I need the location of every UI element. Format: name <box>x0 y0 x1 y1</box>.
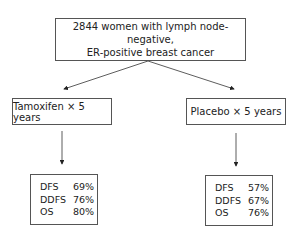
population-line-2: ER-positive breast cancer <box>87 46 214 59</box>
metric-label: OS <box>40 206 72 219</box>
metric-value: 69% <box>72 181 94 194</box>
metric-value: 76% <box>72 194 94 207</box>
metric-label: OS <box>215 207 247 220</box>
arrow-to-tamoxifen <box>64 61 148 89</box>
result-row-ddfs: DDFS 76% <box>40 194 97 207</box>
metric-value: 80% <box>72 206 94 219</box>
tamoxifen-arm-label: Tamoxifen × 5 years <box>13 101 111 123</box>
result-row-ddfs: DDFS 67% <box>215 195 272 208</box>
metric-value: 76% <box>247 207 269 220</box>
tamoxifen-arm-box: Tamoxifen × 5 years <box>12 98 112 125</box>
result-row-dfs: DFS 57% <box>215 182 272 195</box>
arrow-to-placebo <box>148 61 234 89</box>
metric-label: DDFS <box>40 194 72 207</box>
placebo-arm-box: Placebo × 5 years <box>186 98 286 125</box>
metric-label: DFS <box>215 182 247 195</box>
metric-value: 67% <box>247 195 269 208</box>
metric-label: DFS <box>40 181 72 194</box>
population-line-1: 2844 women with lymph node-negative, <box>56 20 245 46</box>
tamoxifen-results-box: DFS 69% DDFS 76% OS 80% <box>30 174 98 225</box>
metric-label: DDFS <box>215 195 247 208</box>
placebo-arm-label: Placebo × 5 years <box>191 106 282 117</box>
placebo-results-box: DFS 57% DDFS 67% OS 76% <box>205 175 273 226</box>
result-row-os: OS 80% <box>40 206 97 219</box>
result-row-dfs: DFS 69% <box>40 181 97 194</box>
result-row-os: OS 76% <box>215 207 272 220</box>
population-box: 2844 women with lymph node-negative, ER-… <box>55 18 246 61</box>
metric-value: 57% <box>247 182 269 195</box>
